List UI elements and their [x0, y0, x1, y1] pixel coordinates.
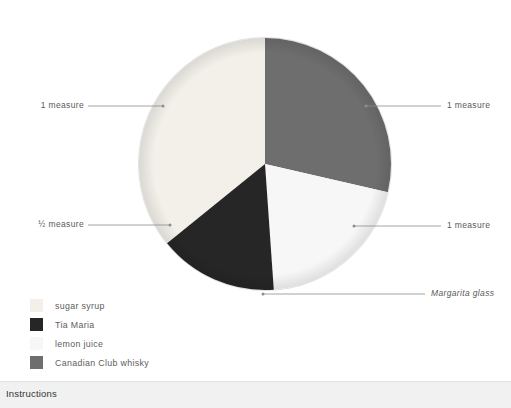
legend-swatch-tia-maria	[30, 318, 43, 331]
callout-bottom-right: 1 measure	[447, 221, 490, 230]
legend-swatch-sugar-syrup	[30, 299, 43, 312]
callout-top-left: 1 measure	[0, 101, 84, 110]
instructions-heading: Instructions	[6, 388, 57, 399]
instructions-bar: Instructions	[0, 381, 511, 408]
legend-item[interactable]: lemon juice	[30, 334, 270, 353]
callout-bottom-left: ½ measure	[0, 220, 84, 229]
legend-swatch-canadian-club-whisky	[30, 356, 43, 369]
legend-swatch-lemon-juice	[30, 337, 43, 350]
legend-label-sugar-syrup: sugar syrup	[55, 301, 105, 311]
callout-glass: Margarita glass	[431, 289, 494, 298]
legend-label-canadian-club-whisky: Canadian Club whisky	[55, 358, 149, 368]
legend-item[interactable]: sugar syrup	[30, 296, 270, 315]
chart-legend: sugar syrup Tia Maria lemon juice Canadi…	[30, 296, 270, 372]
legend-label-lemon-juice: lemon juice	[55, 339, 103, 349]
legend-item[interactable]: Tia Maria	[30, 315, 270, 334]
legend-item[interactable]: Canadian Club whisky	[30, 353, 270, 372]
callout-top-right: 1 measure	[447, 101, 490, 110]
leader-line-glass	[262, 293, 426, 296]
legend-label-tia-maria: Tia Maria	[55, 320, 94, 330]
